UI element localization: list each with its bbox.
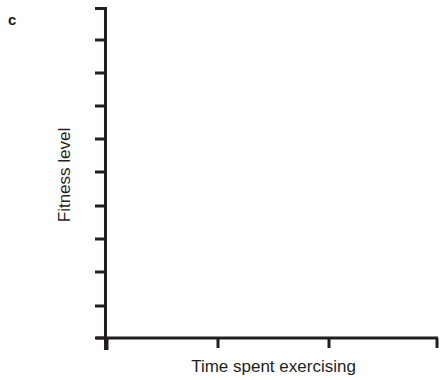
- x-axis-ticks: [107, 338, 437, 350]
- figure-panel: c Fitness level: [0, 0, 440, 380]
- y-axis-label-text: Fitness level: [56, 128, 73, 222]
- x-axis-label: Time spent exercising: [107, 354, 440, 378]
- y-axis-label: Fitness level: [52, 50, 76, 300]
- x-axis-label-text: Time spent exercising: [191, 358, 356, 375]
